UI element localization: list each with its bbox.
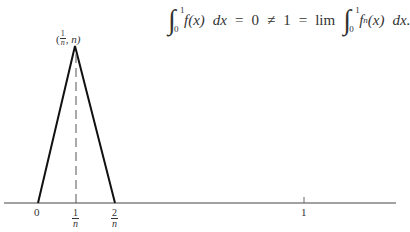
not-equal: ≠: [267, 12, 275, 29]
equals: =: [235, 12, 243, 29]
lhs-value: 0: [251, 12, 259, 29]
lim: lim: [315, 12, 335, 29]
equals: =: [299, 12, 307, 29]
label-one: 1: [301, 206, 307, 218]
integral-sign: ∫10: [168, 6, 182, 34]
label-zero: 0: [34, 206, 40, 218]
differential: dx.: [393, 12, 410, 29]
equation: ∫10 f(x) dx = 0 ≠ 1 = lim ∫10 fn(x) dx.: [168, 6, 410, 34]
integrand: f(x): [184, 12, 205, 29]
differential: dx: [213, 12, 227, 29]
label-two-over-n: 2n: [111, 206, 118, 229]
integral-sign: ∫10: [343, 6, 357, 34]
label-one-over-n: 1n: [72, 206, 79, 229]
peak-label: ( 1n , n): [56, 30, 80, 47]
rhs-value: 1: [283, 12, 291, 29]
